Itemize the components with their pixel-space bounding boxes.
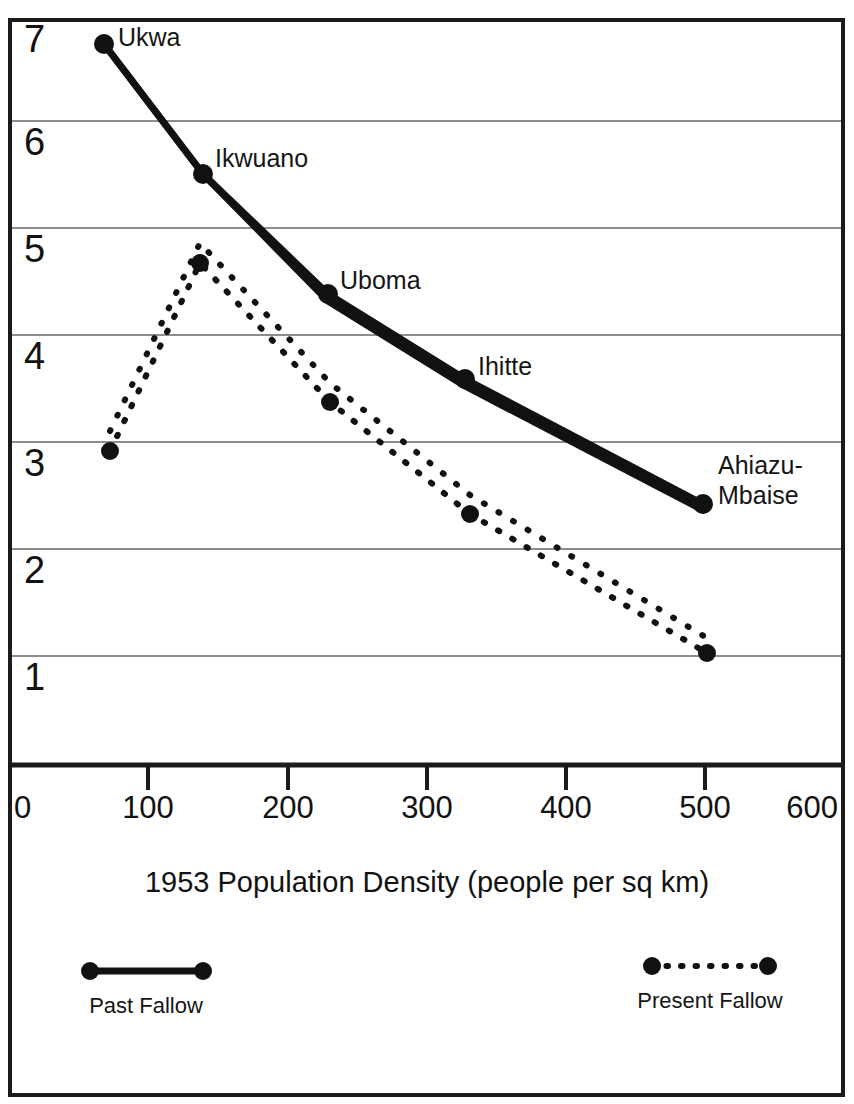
annotation-ahiazu-mbaise-line1: Ahiazu- [718,451,803,479]
x-tick-label-600: 600 [786,790,838,825]
x-axis-title: 1953 Population Density (people per sq k… [145,866,709,898]
annotation-ihitte: Ihitte [478,352,532,380]
x-tick-label-0: 0 [14,790,31,825]
legend-marker-past-start [81,962,99,980]
legend-marker-present-end [759,957,777,975]
legend-marker-past-end [194,962,212,980]
x-axis-tick-labels: 0 100 200 300 400 500 600 [14,790,838,825]
y-tick-label-5: 5 [24,228,45,270]
x-tick-label-100: 100 [122,790,174,825]
chart-figure: 1 2 3 4 5 6 7 [0,0,854,1104]
x-tick-label-300: 300 [401,790,453,825]
y-tick-label-6: 6 [24,121,45,163]
annotation-uboma: Uboma [340,266,421,294]
y-tick-label-2: 2 [24,549,45,591]
x-tick-label-500: 500 [679,790,731,825]
legend-label-present-fallow: Present Fallow [637,988,783,1013]
y-tick-label-1: 1 [24,656,45,698]
y-tick-label-3: 3 [24,442,45,484]
x-tick-label-200: 200 [262,790,314,825]
line-chart-svg: 1 2 3 4 5 6 7 [0,0,854,1104]
y-tick-label-4: 4 [24,335,45,377]
plot-area: 1 2 3 4 5 6 7 [12,18,841,764]
y-tick-label-7: 7 [24,18,45,60]
legend-label-past-fallow: Past Fallow [89,993,203,1018]
legend-marker-present-start [643,957,661,975]
x-tick-label-400: 400 [540,790,592,825]
annotation-ikwuano: Ikwuano [215,144,308,172]
annotation-ahiazu-mbaise-line2: Mbaise [718,481,799,509]
annotation-ukwa: Ukwa [118,23,181,51]
